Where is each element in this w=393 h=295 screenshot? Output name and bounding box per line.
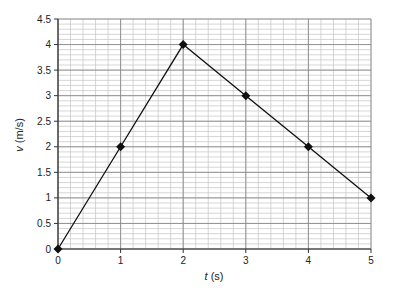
- diamond-marker: [116, 142, 125, 151]
- x-tick-label: 4: [306, 255, 312, 266]
- axes: [58, 19, 371, 249]
- x-tick-label: 1: [118, 255, 124, 266]
- y-axis-label: v (m/s): [13, 118, 25, 152]
- x-tick-label: 3: [243, 255, 249, 266]
- x-tick-label: 2: [180, 255, 186, 266]
- y-tick-label: 4: [45, 39, 51, 50]
- y-tick-label: 2: [45, 141, 51, 152]
- minor-gridlines: [58, 19, 371, 249]
- major-gridlines: [58, 19, 371, 249]
- x-axis-label: t (s): [205, 270, 224, 282]
- diamond-marker: [54, 245, 63, 254]
- y-tick-label: 1.5: [37, 167, 51, 178]
- x-tick-label: 0: [55, 255, 61, 266]
- y-tick-label: 3.5: [37, 65, 51, 76]
- y-tick-label: 4.5: [37, 14, 51, 25]
- y-tick-label: 0: [45, 244, 51, 255]
- y-tick-labels: 00.511.522.533.544.5: [37, 14, 58, 255]
- y-tick-label: 3: [45, 90, 51, 101]
- y-tick-label: 2.5: [37, 116, 51, 127]
- x-tick-label: 5: [368, 255, 374, 266]
- velocity-time-chart: 00.511.522.533.544.5 012345 t (s) v (m/s…: [0, 0, 393, 295]
- y-tick-label: 0.5: [37, 218, 51, 229]
- y-tick-label: 1: [45, 192, 51, 203]
- x-tick-labels: 012345: [55, 249, 374, 266]
